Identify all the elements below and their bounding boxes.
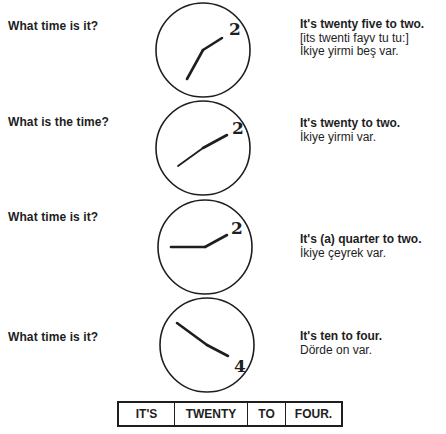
answer-english: It's twenty five to two. [300, 18, 424, 32]
answer-turkish: İkiye yirmi beş var. [300, 45, 424, 59]
question-2: What is the time? [8, 115, 109, 129]
minute-hand [178, 148, 203, 166]
answer-english: It's ten to four. [300, 330, 382, 344]
sentence-table: IT'S TWENTY TO FOUR. [117, 401, 343, 427]
clock-2: 2 [150, 98, 260, 198]
table-cell: FOUR. [285, 403, 341, 425]
clock-numeral: 2 [229, 19, 241, 39]
clock-numeral: 2 [232, 118, 244, 138]
hour-hand [205, 235, 227, 247]
clock-4: 4 [150, 295, 260, 395]
answer-2: It's twenty to two. İkiye yirmi var. [300, 117, 400, 144]
question-3: What time is it? [8, 210, 98, 224]
clock-numeral: 4 [234, 356, 246, 376]
minute-hand [177, 323, 207, 345]
answer-1: It's twenty five to two. [its twenti fay… [300, 18, 424, 59]
minute-hand [187, 50, 203, 79]
answer-english: It's twenty to two. [300, 117, 400, 131]
answer-3: It's (a) quarter to two. İkiye çeyrek va… [300, 233, 422, 260]
hour-hand [207, 345, 228, 356]
question-1: What time is it? [8, 19, 98, 33]
hour-hand [203, 135, 227, 148]
answer-4: It's ten to four. Dörde on var. [300, 330, 382, 357]
answer-english: It's (a) quarter to two. [300, 233, 422, 247]
table-cell: TO [247, 403, 285, 425]
table-cell: TWENTY [174, 403, 247, 425]
answer-turkish: İkiye çeyrek var. [300, 247, 422, 261]
hour-hand [203, 38, 222, 50]
clock-1: 2 [150, 0, 260, 100]
pronunciation: [its twenti fayv tu tu:] [300, 32, 424, 46]
answer-turkish: İkiye yirmi var. [300, 131, 400, 145]
question-4: What time is it? [8, 330, 98, 344]
clock-numeral: 2 [231, 218, 243, 238]
clock-3: 2 [150, 197, 260, 297]
answer-turkish: Dörde on var. [300, 344, 382, 358]
table-cell: IT'S [119, 403, 174, 425]
